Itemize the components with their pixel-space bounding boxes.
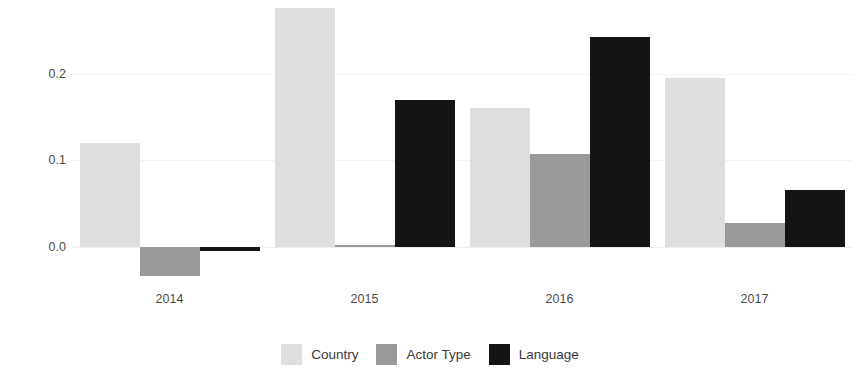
bar-country-2015 [275, 8, 335, 247]
x-axis-ticks: 2014201520162017 [72, 292, 852, 312]
x-tick-label-2017: 2017 [741, 292, 769, 306]
legend-item-country[interactable]: Country [281, 344, 358, 365]
bar-actor-type-2014 [140, 247, 200, 276]
gridline [72, 160, 852, 161]
bar-actor-type-2016 [530, 154, 590, 247]
legend-item-actor-type[interactable]: Actor Type [376, 344, 470, 365]
bar-country-2014 [80, 143, 140, 247]
legend-label: Actor Type [406, 347, 470, 362]
bar-actor-type-2015 [335, 245, 395, 247]
x-tick-label-2015: 2015 [351, 292, 379, 306]
bar-country-2017 [665, 78, 725, 247]
chart-legend: CountryActor TypeLanguage [0, 344, 860, 365]
bar-language-2014 [200, 247, 260, 251]
gridline [72, 74, 852, 75]
legend-swatch-icon [376, 344, 397, 365]
legend-label: Country [311, 347, 358, 362]
bar-language-2015 [395, 100, 455, 247]
legend-item-language[interactable]: Language [489, 344, 579, 365]
y-tick-label: 0.2 [24, 67, 66, 81]
y-tick-label: 0.0 [24, 240, 66, 254]
legend-label: Language [519, 347, 579, 362]
legend-swatch-icon [489, 344, 510, 365]
x-tick-label-2016: 2016 [546, 292, 574, 306]
legend-swatch-icon [281, 344, 302, 365]
y-axis-ticks: 0.00.10.2 [18, 0, 66, 372]
assortativity-bar-chart: Assortativity 0.00.10.2 2014201520162017… [0, 0, 860, 372]
bar-language-2016 [590, 37, 650, 247]
x-tick-label-2014: 2014 [156, 292, 184, 306]
bar-country-2016 [470, 108, 530, 247]
plot-area [72, 0, 852, 286]
y-tick-label: 0.1 [24, 153, 66, 167]
bar-language-2017 [785, 190, 845, 247]
bar-actor-type-2017 [725, 223, 785, 247]
